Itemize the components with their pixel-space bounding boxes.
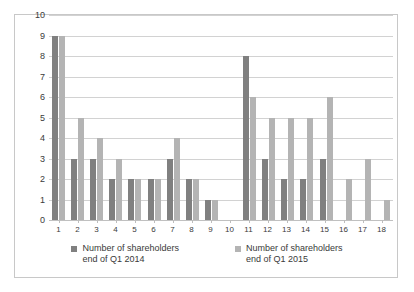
legend-label: Number of shareholders end of Q1 2015 [246,243,343,265]
x-tick-label: 4 [106,225,125,234]
bar-series-1-category-8 [186,179,192,220]
bar-series-1-category-2 [71,159,77,221]
bar-series-2-category-1 [59,36,65,221]
x-tick-label: 17 [353,225,372,234]
bars-layer [49,15,393,220]
bar-group [106,15,125,220]
x-axis: 123456789101112131415161718 [49,220,391,242]
x-tick-mark [344,220,345,223]
x-tick-mark [59,220,60,223]
bar-series-2-category-14 [307,118,313,221]
bar-group [240,15,259,220]
bar-group [125,15,144,220]
bar-series-2-category-8 [193,179,199,220]
x-tick: 8 [182,220,201,242]
bar-series-1-category-12 [262,159,268,221]
x-tick-label: 1 [49,225,68,234]
legend-item-2: Number of shareholders end of Q1 2015 [235,243,343,277]
y-tick-label: 7 [23,73,45,82]
bar-series-1-category-14 [300,179,306,220]
bar-series-2-category-2 [78,118,84,221]
bar-series-1-category-5 [128,179,134,220]
x-tick: 18 [372,220,391,242]
x-tick: 16 [334,220,353,242]
x-tick-mark [268,220,269,223]
bar-series-2-category-5 [135,179,141,220]
x-tick: 6 [144,220,163,242]
bar-series-2-category-4 [116,159,122,221]
bar-group [87,15,106,220]
bar-group [297,15,316,220]
x-tick-mark [154,220,155,223]
bar-series-2-category-3 [97,138,103,220]
bar-series-1-category-9 [205,200,211,221]
chart-legend: Number of shareholders end of Q1 2014Num… [15,243,399,277]
x-tick-label: 14 [296,225,315,234]
x-tick: 15 [315,220,334,242]
bar-series-2-category-18 [384,200,390,221]
bar-series-2-category-17 [365,159,371,221]
bar-series-2-category-7 [174,138,180,220]
x-tick-mark [116,220,117,223]
y-tick-label: 5 [23,114,45,123]
x-tick-mark [78,220,79,223]
bar-group [336,15,355,220]
x-tick-label: 18 [372,225,391,234]
x-tick: 13 [277,220,296,242]
bar-series-2-category-15 [327,97,333,220]
x-tick-label: 3 [87,225,106,234]
bar-group [68,15,87,220]
bar-group [221,15,240,220]
bar-group [374,15,393,220]
y-tick-label: 1 [23,196,45,205]
bar-group [202,15,221,220]
bar-group [355,15,374,220]
bar-series-2-category-9 [212,200,218,221]
x-tick-label: 5 [125,225,144,234]
x-tick: 14 [296,220,315,242]
y-tick-label: 6 [23,93,45,102]
bar-series-2-category-16 [346,179,352,220]
x-tick-mark [382,220,383,223]
x-tick-mark [211,220,212,223]
x-tick: 4 [106,220,125,242]
bar-series-1-category-11 [243,56,249,220]
plot-area: 109876543210 [15,15,399,229]
x-tick-label: 11 [239,225,258,234]
bar-group [278,15,297,220]
x-tick-label: 7 [163,225,182,234]
chart-container: 109876543210 123456789101112131415161718… [14,14,398,278]
bar-series-2-category-12 [269,118,275,221]
y-tick-label: 0 [23,216,45,225]
x-tick: 5 [125,220,144,242]
x-tick-mark [325,220,326,223]
x-tick: 2 [68,220,87,242]
legend-swatch-icon [71,246,77,252]
x-tick-mark [230,220,231,223]
bar-series-1-category-4 [109,179,115,220]
bar-group [145,15,164,220]
x-tick-label: 13 [277,225,296,234]
x-tick-label: 16 [334,225,353,234]
x-tick-label: 10 [220,225,239,234]
x-tick-mark [287,220,288,223]
x-tick-mark [306,220,307,223]
x-tick-mark [173,220,174,223]
legend-item-1: Number of shareholders end of Q1 2014 [71,243,179,277]
x-tick-label: 6 [144,225,163,234]
y-tick-label: 3 [23,155,45,164]
x-tick: 17 [353,220,372,242]
bar-series-1-category-15 [320,159,326,221]
y-tick-label: 4 [23,134,45,143]
x-tick: 10 [220,220,239,242]
bar-series-1-category-3 [90,159,96,221]
x-tick: 7 [163,220,182,242]
y-tick-label: 8 [23,52,45,61]
x-tick: 9 [201,220,220,242]
x-tick: 11 [239,220,258,242]
bar-group [49,15,68,220]
y-tick-label: 10 [23,11,45,20]
x-tick: 12 [258,220,277,242]
bar-series-1-category-13 [281,179,287,220]
bar-group [259,15,278,220]
